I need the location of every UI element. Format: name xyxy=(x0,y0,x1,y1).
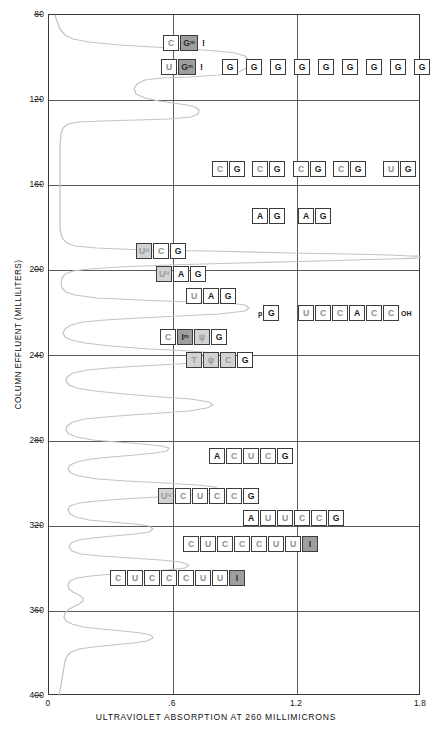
base-box: G xyxy=(243,488,259,504)
base-box: G xyxy=(294,59,310,75)
base-label: C xyxy=(149,574,155,583)
base-box: C xyxy=(163,35,179,51)
base-box: C xyxy=(383,305,399,321)
base-label: U xyxy=(132,574,138,583)
base-label: C xyxy=(265,452,271,461)
sequence-annotation: CG xyxy=(333,161,367,177)
base-label: G xyxy=(227,63,234,72)
base-box: G xyxy=(246,59,262,75)
base-modification-superscript: m xyxy=(190,40,195,45)
base-label: C xyxy=(217,165,223,174)
sequence-annotation: UGm! xyxy=(161,59,203,75)
base-box: G xyxy=(269,208,285,224)
base-modification-superscript: m xyxy=(188,64,193,69)
sequence-annotation: CGm! xyxy=(163,35,205,51)
base-label: C xyxy=(320,309,326,318)
base-label: C xyxy=(231,452,237,461)
base-label: C xyxy=(183,574,189,583)
base-box: Gm xyxy=(178,59,196,75)
base-box: A xyxy=(349,305,365,321)
sequence-annotation: AG xyxy=(298,208,332,224)
base-box: C xyxy=(183,536,199,552)
base-label: C xyxy=(298,165,304,174)
base-label: A xyxy=(248,514,254,523)
base-label: A xyxy=(214,452,220,461)
sequence-annotation: CG xyxy=(212,161,246,177)
x-tick-label: 1.2 xyxy=(290,698,302,708)
base-label: U xyxy=(217,574,223,583)
y-tick-mark xyxy=(34,99,42,100)
base-box: C xyxy=(260,448,276,464)
base-box: G xyxy=(315,208,331,224)
base-label: U xyxy=(248,452,254,461)
base-box: Gm xyxy=(180,35,198,51)
base-box: U xyxy=(260,510,276,526)
base-label: G xyxy=(419,63,426,72)
base-modification-superscript: H xyxy=(165,271,169,276)
base-label: I xyxy=(309,540,311,549)
base-box: C xyxy=(332,305,348,321)
base-box: A xyxy=(243,510,259,526)
base-label: G xyxy=(274,165,281,174)
base-box: U xyxy=(186,288,202,304)
sequence-marker-exclamation: ! xyxy=(199,35,205,51)
y-tick-mark xyxy=(34,440,42,441)
base-box: C xyxy=(175,488,191,504)
base-box: U xyxy=(195,570,211,586)
base-box: A xyxy=(203,288,219,304)
base-box: G xyxy=(270,59,286,75)
base-label: U xyxy=(191,292,197,301)
base-label: C xyxy=(239,540,245,549)
base-label: G xyxy=(347,63,354,72)
base-box: U xyxy=(277,510,293,526)
sequence-annotation: AUUCCG xyxy=(243,510,345,526)
base-label: A xyxy=(354,309,360,318)
base-modification-superscript: H xyxy=(145,248,149,253)
base-label: C xyxy=(166,574,172,583)
base-label: I xyxy=(236,574,238,583)
base-box: G xyxy=(229,161,245,177)
base-box: U xyxy=(192,488,208,504)
sequence-marker-exclamation: ! xyxy=(197,59,203,75)
sequence-annotation: UCCACCOH xyxy=(298,305,413,321)
x-tick-label: .6 xyxy=(168,698,175,708)
base-label: G xyxy=(371,63,378,72)
base-box: A xyxy=(209,448,225,464)
base-box: I xyxy=(229,570,245,586)
base-box: C xyxy=(226,488,242,504)
y-tick-mark xyxy=(34,525,42,526)
y-tick-mark xyxy=(34,610,42,611)
base-label: C xyxy=(299,514,305,523)
base-box: G xyxy=(269,161,285,177)
sequence-annotation: CImψG xyxy=(160,329,228,345)
base-label: C xyxy=(225,356,231,365)
base-label: C xyxy=(180,492,186,501)
base-box: G xyxy=(318,59,334,75)
base-label: C xyxy=(231,492,237,501)
base-box: C xyxy=(293,161,309,177)
base-label: U xyxy=(273,540,279,549)
base-box: C xyxy=(110,570,126,586)
sequence-annotation: UG xyxy=(383,161,417,177)
base-label: G xyxy=(282,452,289,461)
base-label: U xyxy=(290,540,296,549)
base-label: C xyxy=(188,540,194,549)
base-box: U xyxy=(268,536,284,552)
base-box: G xyxy=(222,59,238,75)
sequence-annotation: CG xyxy=(293,161,327,177)
base-label: G xyxy=(275,63,282,72)
base-label: G xyxy=(242,356,249,365)
base-box: A xyxy=(298,208,314,224)
base-label: G xyxy=(183,39,190,48)
base-box: C xyxy=(209,488,225,504)
base-label: G xyxy=(274,212,281,221)
sequence-annotation: TψCG xyxy=(186,352,254,368)
base-label: G xyxy=(216,333,223,342)
x-tick-label: 1.8 xyxy=(414,698,426,708)
base-box: G xyxy=(366,59,382,75)
base-label: U xyxy=(388,165,394,174)
base-label: U xyxy=(166,63,172,72)
base-label: G xyxy=(320,212,327,221)
base-box: G xyxy=(400,161,416,177)
sequence-annotation: UAG xyxy=(186,288,237,304)
